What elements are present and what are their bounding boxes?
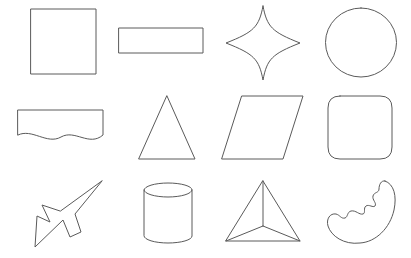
canvas-background [0, 0, 411, 258]
shape-canvas [0, 0, 411, 258]
shape-grid [0, 0, 411, 258]
